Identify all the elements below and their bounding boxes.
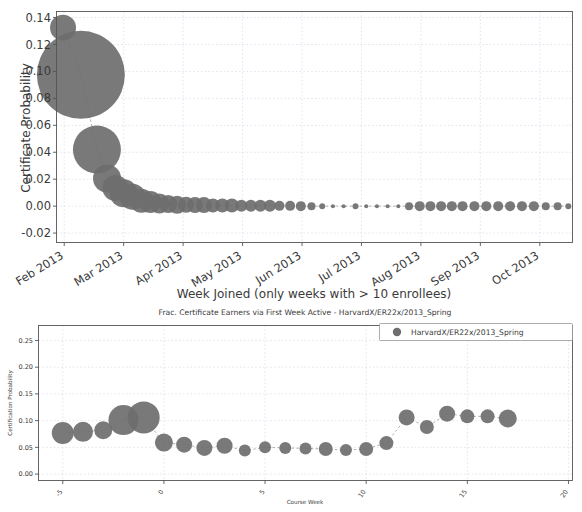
y-tick-label: 0.15 — [19, 390, 33, 398]
y-tick-label: 0.10 — [19, 417, 33, 425]
data-point-bubble — [308, 202, 316, 210]
data-point-bubble — [399, 409, 415, 425]
data-point-bubble — [259, 441, 271, 453]
data-point-bubble — [176, 437, 192, 453]
data-point-bubble — [128, 401, 160, 433]
data-point-bubble — [319, 203, 325, 209]
y-tick-label: 0.25 — [19, 337, 33, 345]
data-point-bubble — [542, 202, 550, 210]
data-point-bubble — [420, 420, 434, 434]
data-point-bubble — [296, 201, 306, 211]
bottom-chart-frame — [39, 326, 573, 481]
data-point-bubble — [396, 204, 400, 208]
data-point-bubble — [469, 201, 479, 211]
bottom-chart-gridlines — [39, 326, 573, 481]
data-point-bubble — [239, 445, 251, 457]
top-chart-x-axis-title: Week Joined (only weeks with > 10 enroll… — [177, 287, 451, 301]
x-tick-label: Feb 2013 — [13, 248, 66, 288]
y-tick-label: 0.12 — [25, 38, 51, 52]
data-point-bubble — [493, 201, 503, 211]
y-tick-label: 0.14 — [25, 11, 51, 25]
data-point-bubble — [447, 201, 457, 211]
y-tick-label: 0.05 — [19, 444, 33, 452]
y-tick-label: 0.20 — [19, 363, 33, 371]
x-tick-label: 20 — [559, 488, 570, 499]
top-chart: -0.020.000.020.040.060.080.100.120.14 Fe… — [13, 11, 572, 301]
data-point-bubble — [52, 422, 74, 444]
top-chart-y-axis-title: Certificate Probability — [19, 63, 33, 193]
data-point-bubble — [274, 201, 284, 211]
data-point-bubble — [565, 203, 571, 209]
data-point-bubble — [285, 201, 295, 211]
bottom-chart-data-points — [52, 401, 517, 456]
bottom-chart-title: Frac. Certificate Earners via First Week… — [159, 308, 452, 317]
data-point-bubble — [331, 204, 335, 208]
data-point-bubble — [155, 434, 173, 452]
x-tick-label: Jul 2013 — [315, 248, 363, 285]
data-point-bubble — [425, 201, 435, 211]
y-tick-label: -0.02 — [21, 226, 51, 240]
x-tick-label: Jun 2013 — [252, 248, 303, 287]
x-tick-label: 0 — [157, 488, 166, 496]
data-point-bubble — [554, 202, 562, 210]
data-point-bubble — [529, 201, 539, 211]
data-point-bubble — [375, 204, 379, 208]
legend-entry-label: HarvardX/ER22x/2013_Spring — [411, 328, 524, 337]
data-point-bubble — [505, 201, 515, 211]
bottom-chart-x-axis-title: Course Week — [287, 499, 324, 505]
data-point-bubble — [458, 201, 468, 211]
bottom-chart-y-ticks: 0.000.050.100.150.200.25 — [19, 337, 39, 479]
bottom-chart: 0.000.050.100.150.200.25 -505101520 Cert… — [7, 308, 573, 505]
data-point-bubble — [379, 436, 393, 450]
data-point-bubble — [517, 201, 527, 211]
data-point-bubble — [386, 204, 390, 208]
data-point-bubble — [481, 409, 495, 423]
data-point-bubble — [319, 442, 333, 456]
x-tick-label: 15 — [458, 488, 469, 499]
data-point-bubble — [264, 200, 276, 212]
data-point-bubble — [439, 406, 455, 422]
top-chart-x-ticks: Feb 2013Mar 2013Apr 2013May 2013Jun 2013… — [13, 243, 541, 291]
data-point-bubble — [217, 438, 233, 454]
data-point-bubble — [73, 422, 93, 442]
data-point-bubble — [300, 442, 312, 454]
x-tick-label: Mar 2013 — [72, 248, 126, 289]
data-point-bubble — [279, 442, 291, 454]
data-point-bubble — [460, 409, 474, 423]
legend-marker-icon — [393, 328, 401, 336]
data-point-bubble — [364, 204, 368, 208]
figure-container: -0.020.000.020.040.060.080.100.120.14 Fe… — [0, 0, 582, 512]
data-point-bubble — [405, 202, 413, 210]
x-tick-label: 10 — [357, 488, 368, 499]
data-point-bubble — [342, 204, 346, 208]
data-point-bubble — [415, 201, 425, 211]
y-tick-label: 0.00 — [25, 199, 51, 213]
data-point-bubble — [481, 201, 491, 211]
x-tick-label: Oct 2013 — [489, 248, 541, 288]
bottom-chart-y-axis-title: Certification Probability — [7, 370, 14, 436]
bottom-chart-legend[interactable]: HarvardX/ER22x/2013_Spring — [380, 324, 573, 341]
y-tick-label: 0.00 — [19, 470, 33, 478]
data-point-bubble — [196, 440, 212, 456]
x-tick-label: Apr 2013 — [132, 248, 184, 288]
data-point-bubble — [340, 444, 352, 456]
x-tick-label: 5 — [258, 488, 267, 496]
x-tick-label: May 2013 — [189, 248, 245, 290]
x-tick-label: Sep 2013 — [428, 248, 482, 289]
x-tick-label: Aug 2013 — [368, 248, 422, 289]
data-point-bubble — [353, 203, 359, 209]
data-point-bubble — [499, 410, 517, 428]
x-tick-label: -5 — [54, 488, 64, 498]
bottom-chart-x-ticks: -505101520 — [54, 481, 570, 500]
plots-svg: -0.020.000.020.040.060.080.100.120.14 Fe… — [0, 0, 582, 512]
data-point-bubble — [359, 442, 373, 456]
data-point-bubble — [436, 201, 446, 211]
